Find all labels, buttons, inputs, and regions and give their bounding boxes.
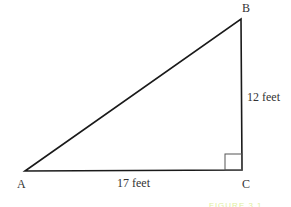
right-angle-marker: [225, 154, 242, 170]
vertex-label-b: B: [242, 2, 250, 14]
vertex-label-a: A: [17, 178, 26, 190]
figure-caption: FIGURE 3.1: [209, 201, 263, 207]
vertex-label-c: C: [242, 178, 250, 190]
side-label-ac: 17 feet: [117, 177, 150, 189]
side-label-bc: 12 feet: [247, 91, 280, 103]
triangle-abc: [25, 19, 242, 171]
